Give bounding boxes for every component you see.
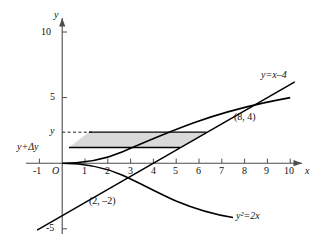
origin-label: O (52, 166, 59, 176)
x-tick-label-minus-1: -1 (33, 166, 41, 176)
line-equation-label: y=x–4 (261, 70, 287, 80)
x-tick-label-8: 8 (242, 166, 247, 176)
x-tick-label-6: 6 (196, 166, 201, 176)
y-axis-arrow (59, 18, 65, 27)
parabola-equation-label: y²=2x (236, 211, 260, 221)
y-tick-label-10: 10 (41, 27, 51, 37)
x-tick-label-7: 7 (219, 166, 224, 176)
lower-intersection-point-label: (2, –2) (89, 196, 116, 206)
x-tick-label-10: 10 (284, 166, 294, 176)
x-tick-label-1: 1 (82, 166, 87, 176)
x-axis-label: x (305, 166, 309, 176)
x-axis-arrow (294, 160, 303, 166)
strip-lower-level-label: y+Δy (17, 142, 39, 152)
y-tick-label-minus-5: -5 (46, 223, 54, 233)
x-tick-label-4: 4 (151, 166, 156, 176)
x-tick-label-3: 3 (128, 166, 133, 176)
y-axis-ticks (62, 32, 67, 229)
x-tick-label-2: 2 (105, 166, 110, 176)
parabola-curve-extension (264, 98, 290, 103)
parabola-lower-extension (176, 201, 233, 218)
strip-upper-level-label: y (50, 126, 54, 136)
upper-intersection-point-label: (8, 4) (234, 112, 256, 122)
y-tick-label-5: 5 (50, 92, 55, 102)
coordinate-plane-svg (0, 0, 319, 247)
y-axis-label: y (54, 10, 58, 20)
x-tick-label-9: 9 (264, 166, 269, 176)
math-figure: y x O 10 5 -5 -1 1 2 3 4 5 6 7 8 9 10 y … (0, 0, 319, 247)
line-y-equals-x-minus-4 (37, 82, 295, 230)
x-tick-label-5: 5 (173, 166, 178, 176)
